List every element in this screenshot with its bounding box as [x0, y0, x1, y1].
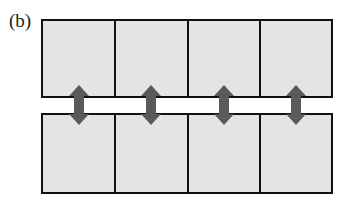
bottom-row: [42, 114, 332, 193]
bottom-cell-3: [188, 114, 260, 193]
top-row: [42, 20, 332, 97]
bottom-cell-1: [42, 114, 115, 193]
bottom-cell-2: [115, 114, 188, 193]
bottom-cell-4: [260, 114, 332, 193]
top-cell-1: [42, 20, 115, 97]
diagram: [0, 0, 354, 204]
top-cell-2: [115, 20, 188, 97]
